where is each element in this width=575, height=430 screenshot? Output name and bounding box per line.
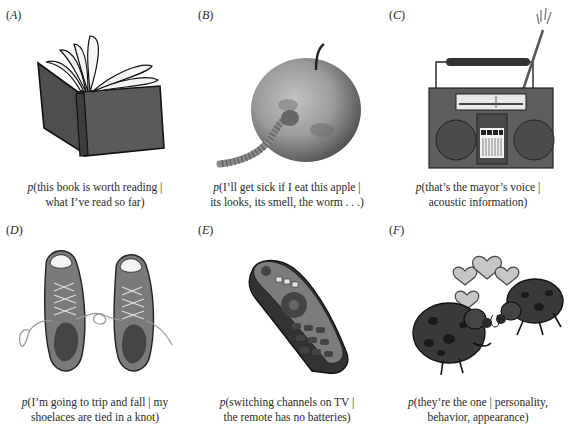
panel-b: (B) p(I’ll get sick if I eat this apple … [192, 0, 382, 215]
panel-d: (D) p(I’m going to trip and fall | my sh… [0, 215, 190, 430]
panel-e: (E) p(switching channels on TV | the rem… [192, 215, 382, 430]
ladybugs-in-love-icon [383, 215, 573, 385]
caption-c: p(that’s the mayor’s voice | acoustic in… [383, 180, 573, 210]
caption-b: p(I’ll get sick if I eat this apple | it… [192, 180, 382, 210]
caption-f: p(they’re the one | personality, behavio… [383, 395, 573, 425]
tv-remote-icon [192, 215, 382, 385]
sneakers-tied-laces-icon [0, 215, 190, 385]
caption-e: p(switching channels on TV | the remote … [192, 395, 382, 425]
panel-f: (F) p(they’re the one | personality, beh… [383, 215, 573, 430]
panel-a: (A) p(this book is worth reading | what … [0, 0, 190, 215]
caption-d: p(I’m going to trip and fall | my shoela… [0, 395, 190, 425]
caption-a: p(this book is worth reading | what I’ve… [0, 180, 190, 210]
boombox-radio-icon [383, 0, 573, 170]
panel-c: (C) p(that’s the mayor’s voice | acousti… [383, 0, 573, 215]
wormy-apple-icon [192, 0, 382, 170]
figure-grid: (A) p(this book is worth reading | what … [0, 0, 575, 430]
open-book-icon [0, 0, 190, 170]
